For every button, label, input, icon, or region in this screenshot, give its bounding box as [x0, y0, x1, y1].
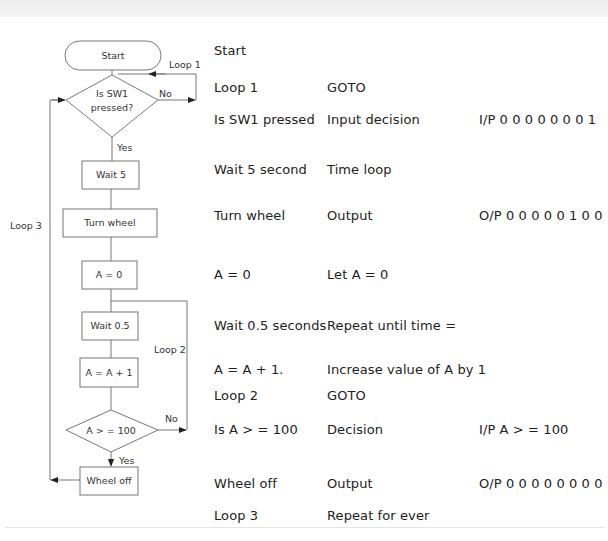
action-cell: Output — [327, 208, 373, 223]
step-cell: Is SW1 pressed — [214, 112, 315, 127]
step-cell: Loop 1 — [214, 80, 258, 95]
loop3-label: Loop 3 — [10, 220, 42, 231]
decision2-label: A > = 100 — [86, 425, 136, 436]
action-cell: Time loop — [327, 162, 392, 177]
step-cell: Turn wheel — [214, 208, 285, 223]
start-label: Start — [101, 50, 124, 61]
yes2-label: Yes — [118, 455, 134, 466]
a-increment-label: A = A + 1 — [85, 367, 132, 378]
action-cell: Increase value of A by 1 — [327, 362, 486, 377]
action-cell: GOTO — [327, 388, 366, 403]
yes1-label: Yes — [116, 142, 132, 153]
io-cell: I/P A > = 100 — [479, 422, 568, 437]
io-cell: O/P 0 0 0 0 0 1 0 0 — [479, 208, 603, 223]
step-cell: Is A > = 100 — [214, 422, 298, 437]
io-cell: O/P 0 0 0 0 0 0 0 0 — [479, 476, 603, 491]
step-cell: Wait 0.5 seconds — [214, 318, 326, 333]
action-cell: Repeat until time = — [327, 318, 456, 333]
bottom-divider — [5, 527, 605, 528]
step-cell: Loop 3 — [214, 508, 258, 523]
step-cell: Loop 2 — [214, 388, 258, 403]
step-cell: Start — [214, 43, 246, 58]
action-cell: Output — [327, 476, 373, 491]
action-cell: Repeat for ever — [327, 508, 429, 523]
no2-label: No — [165, 413, 178, 424]
no1-label: No — [159, 88, 172, 99]
wait05-label: Wait 0.5 — [90, 320, 129, 331]
a-zero-label: A = 0 — [96, 269, 123, 280]
decision1-label-line1: Is SW1 — [96, 88, 128, 99]
decision1-label-line2: pressed? — [91, 102, 133, 113]
step-cell: Wheel off — [214, 476, 277, 491]
io-cell: I/P 0 0 0 0 0 0 0 1 — [479, 112, 596, 127]
action-cell: Decision — [327, 422, 383, 437]
action-cell: Let A = 0 — [327, 267, 388, 282]
action-cell: GOTO — [327, 80, 366, 95]
flowchart: Start Is SW1 pressed? Wait 5 Turn wheel … — [0, 0, 608, 541]
step-cell: A = A + 1. — [214, 362, 284, 377]
step-cell: Wait 5 second — [214, 162, 307, 177]
loop2-label: Loop 2 — [154, 344, 186, 355]
action-cell: Input decision — [327, 112, 420, 127]
step-cell: A = 0 — [214, 267, 251, 282]
wait5-label: Wait 5 — [96, 169, 126, 180]
turn-wheel-label: Turn wheel — [83, 217, 135, 228]
wheel-off-label: Wheel off — [86, 475, 132, 486]
loop1-label: Loop 1 — [169, 59, 201, 70]
